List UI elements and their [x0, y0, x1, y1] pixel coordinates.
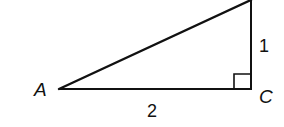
right-angle-marker — [234, 74, 251, 89]
vertex-label-a: A — [33, 79, 47, 100]
side-label-horizontal: 2 — [147, 101, 157, 121]
triangle — [59, 0, 251, 90]
side-label-vertical: 1 — [259, 36, 269, 56]
vertex-label-c: C — [259, 86, 273, 107]
right-triangle-diagram: A C 2 1 — [0, 0, 284, 127]
hypotenuse — [59, 0, 251, 89]
